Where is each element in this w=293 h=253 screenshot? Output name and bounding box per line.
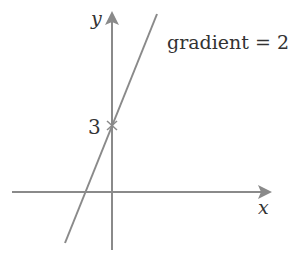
y-intercept-label: 3 xyxy=(88,117,101,137)
y-axis-label: y xyxy=(91,9,102,28)
y-axis xyxy=(105,11,119,250)
x-axis-label: x xyxy=(258,198,269,217)
graph-diagram: y x 3 gradient = 2 xyxy=(0,0,293,253)
gradient-annotation: gradient = 2 xyxy=(167,33,289,52)
x-axis xyxy=(12,185,272,199)
